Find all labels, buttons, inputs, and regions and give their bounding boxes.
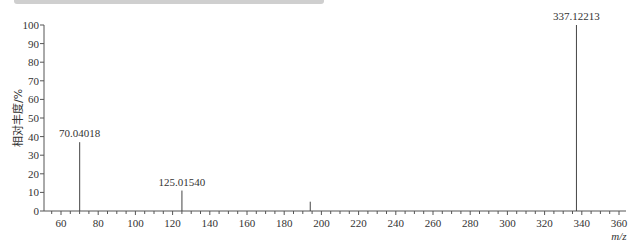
y-tick-label: 60 — [28, 93, 40, 105]
x-tick-label: 280 — [462, 217, 479, 229]
x-tick-label: 340 — [574, 217, 591, 229]
y-tick-label: 80 — [28, 56, 40, 68]
x-tick-label: 300 — [499, 217, 516, 229]
y-axis-label: 相对丰度/% — [11, 89, 25, 147]
y-tick-label: 40 — [28, 131, 40, 143]
x-tick-label: 360 — [611, 217, 628, 229]
x-tick-label: 80 — [93, 217, 105, 229]
peaks: 70.04018125.01540337.12213 — [59, 10, 600, 211]
y-tick-label: 0 — [34, 205, 40, 217]
peak-label: 70.04018 — [59, 127, 101, 139]
x-tick-label: 200 — [313, 217, 330, 229]
y-tick-label: 10 — [28, 186, 40, 198]
mass-spectrum-chart: 0102030405060708090100608010012014016018… — [0, 0, 640, 246]
x-tick-label: 140 — [202, 217, 219, 229]
peak-label: 337.12213 — [553, 10, 600, 22]
peak-label: 125.01540 — [159, 176, 206, 188]
x-tick-label: 60 — [56, 217, 68, 229]
x-tick-label: 220 — [350, 217, 367, 229]
y-tick-label: 70 — [28, 75, 40, 87]
x-tick-label: 260 — [425, 217, 442, 229]
y-tick-label: 30 — [28, 149, 40, 161]
x-tick-label: 320 — [536, 217, 553, 229]
x-tick-label: 100 — [127, 217, 144, 229]
x-tick-label: 180 — [276, 217, 293, 229]
x-tick-label: 160 — [239, 217, 256, 229]
axes: 0102030405060708090100608010012014016018… — [23, 19, 628, 229]
y-tick-label: 50 — [28, 112, 40, 124]
x-tick-label: 120 — [164, 217, 181, 229]
y-tick-label: 90 — [28, 38, 40, 50]
y-tick-label: 20 — [28, 168, 40, 180]
x-axis-label: m/z — [611, 230, 627, 242]
y-tick-label: 100 — [23, 19, 40, 31]
x-tick-label: 240 — [388, 217, 405, 229]
